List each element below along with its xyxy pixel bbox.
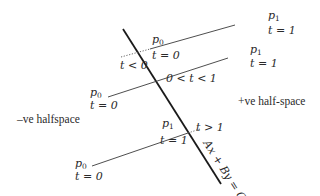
upper-p1-t: t = 1 [268,24,296,37]
positive-halfspace-label: +ve half-space [238,95,305,108]
lower-p0-t: t = 0 [75,170,103,183]
upper-p0-label: p0 [152,33,164,47]
lower-p1-t: t = 1 [160,134,188,147]
negative-halfspace-label: –ve halfspace [16,113,80,126]
boundary-equation-label: Ax + By = C [200,137,249,196]
middle-p1-label: p1 [250,43,262,57]
lower-p0-label: p0 [75,157,87,171]
lower-intersection-label: t > 1 [196,121,224,134]
middle-p1-t: t = 1 [250,57,278,70]
lower-p1-label: p1 [162,117,174,131]
line-halfspace-diagram: p1 t = 1 p0 t = 0 t < 0 p1 t = 1 p0 t = … [0,0,320,196]
middle-p0-t: t = 0 [90,99,118,112]
middle-p0-label: p0 [90,86,102,100]
upper-p1-label: p1 [268,9,280,23]
middle-intersection-label: 0 < t < 1 [166,72,217,85]
upper-intersection-label: t < 0 [120,59,148,72]
upper-p0-t: t = 0 [152,49,180,62]
